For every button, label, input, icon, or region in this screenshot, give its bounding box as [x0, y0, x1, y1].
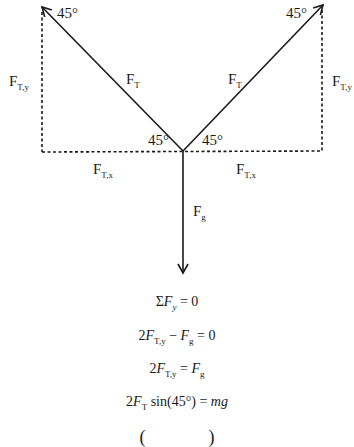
tension-symbol: F [133, 394, 142, 409]
sine-function: sin(45°) = [147, 394, 211, 409]
tension-y-left-subscript: T,y [17, 82, 29, 92]
tension-y-left-label: FT,y [9, 74, 29, 92]
tension-y-right-label: FT,y [332, 74, 352, 92]
gravity-symbol: F [181, 328, 190, 343]
tension-x-dashed [42, 151, 322, 152]
gravity-symbol: F [192, 361, 201, 376]
angle-top-left-label: 45° [57, 6, 78, 21]
equation-sine-form: 2FT sin(45°) = mg [0, 395, 354, 412]
equation-y-balance: 2FT,y − Fg = 0 [0, 329, 354, 346]
equals-sign: = [177, 361, 192, 376]
tension-y-right-subscript: T,y [340, 82, 352, 92]
tension-x-left-label: FT,x [93, 162, 113, 180]
tension-left-label: FT [126, 72, 140, 90]
tension-right-label: FT [228, 72, 242, 90]
tension-right-arrow [183, 5, 323, 151]
equation-partial-cutoff: ( ) [0, 428, 354, 446]
tension-symbol: F [156, 361, 165, 376]
equation-rhs: = 0 [194, 328, 216, 343]
gravity-subscript: g [200, 369, 205, 379]
tension-subscript: T,y [165, 369, 177, 379]
tension-x-left-subscript: T,x [101, 170, 113, 180]
gravity-label: Fg [193, 204, 206, 222]
angle-bottom-left-label: 45° [148, 133, 169, 148]
tension-subscript: T,y [154, 336, 166, 346]
angle-top-right-label: 45° [286, 6, 307, 21]
angle-bottom-right-label: 45° [202, 133, 223, 148]
tension-left-arrow [42, 7, 183, 151]
tension-right-subscript: T [236, 80, 242, 90]
gravity-subscript: g [201, 212, 206, 222]
tension-x-right-subscript: T,x [244, 170, 256, 180]
mg-term: mg [211, 394, 228, 409]
equation-tension-equals-gravity: 2FT,y = Fg [0, 362, 354, 379]
tension-left-subscript: T [134, 80, 140, 90]
minus-sign: − [166, 328, 181, 343]
equation-sum-forces: ΣFy = 0 [0, 295, 354, 312]
tension-x-right-label: FT,x [236, 162, 256, 180]
equation-rhs: = 0 [176, 294, 198, 309]
sigma-symbol: Σ [156, 294, 164, 309]
tension-symbol: F [145, 328, 154, 343]
